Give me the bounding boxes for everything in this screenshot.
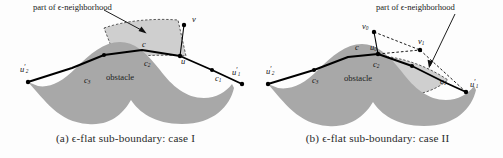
dot-u2-prime: [26, 80, 30, 84]
panel-a-caption: (a) ϵ-flat sub-boundary: case I: [0, 132, 251, 144]
label-arc-c3: c3: [312, 75, 318, 85]
label-vertex-u2-prime: u′2: [20, 64, 28, 74]
dot-v: [182, 23, 186, 27]
label-vertex-v1: v1: [418, 36, 424, 46]
figure-panel-a: part of ϵ-neighborhood obstacle v u c c2…: [0, 0, 251, 158]
label-vertex-v: v: [192, 14, 196, 24]
label-arc-c3: c3: [84, 75, 90, 85]
label-arc-c2: c2: [373, 59, 379, 69]
dot-u0: [376, 52, 380, 56]
label-vertex-u0: u0: [370, 42, 377, 52]
label-vertex-v0: v0: [362, 21, 368, 31]
panel-a-diagram: [0, 0, 251, 132]
label-vertex-u1-prime: u′1: [470, 79, 478, 89]
dot-v0: [372, 30, 376, 34]
dot-u1-prime: [464, 90, 468, 94]
epsilon-neighborhood-annotation-b: part of ϵ-neighborhood: [376, 2, 455, 12]
dot-c1-start: [410, 64, 414, 68]
label-vertex-u2-prime: u′2: [266, 66, 274, 76]
obstacle-label-a: obstacle: [106, 72, 134, 82]
label-arc-c: c: [355, 42, 359, 52]
figure-panel-b: part of ϵ-neighborhood obstacle v0 v1 u0…: [252, 0, 503, 158]
dot-u1-prime: [240, 82, 244, 86]
label-arc-c1: c1: [440, 76, 446, 86]
label-vertex-u: u: [181, 56, 185, 66]
panel-b-caption: (b) ϵ-flat sub-boundary: case II: [252, 132, 503, 144]
obstacle-region-a: [28, 42, 234, 124]
dot-c1-mid: [210, 68, 214, 72]
dashed-u0-v1: [378, 50, 420, 54]
dot-c3-mid: [312, 68, 316, 72]
label-arc-c2: c2: [144, 58, 150, 68]
figure-root: part of ϵ-neighborhood obstacle v u c c2…: [0, 0, 503, 158]
label-vertex-u1-prime: u′1: [232, 67, 240, 77]
label-arc-c: c: [142, 39, 146, 49]
epsilon-neighborhood-annotation-a: part of ϵ-neighborhood: [33, 2, 112, 12]
dot-c3-c2: [102, 53, 106, 57]
dot-u2-prime: [266, 82, 270, 86]
label-arc-c1: c1: [215, 73, 221, 83]
dot-v1: [418, 48, 422, 52]
dashed-v0-v1: [374, 32, 420, 50]
obstacle-label-b: obstacle: [344, 73, 372, 83]
